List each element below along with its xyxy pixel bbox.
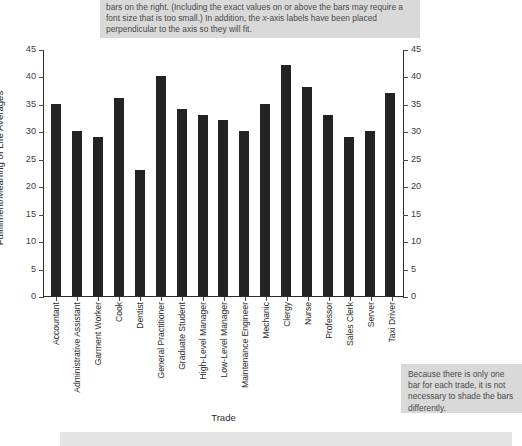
x-axis-label-text: Administrative Assistant	[72, 302, 81, 393]
y-tick-right	[403, 242, 408, 243]
x-axis-label-text: Professor	[324, 302, 333, 339]
y-tick-label-left: 15	[26, 210, 36, 219]
y-tick-left	[39, 270, 44, 271]
y-tick-label-right: 15	[411, 210, 421, 219]
x-tick	[224, 297, 225, 301]
bar	[323, 115, 333, 296]
y-tick-left	[39, 132, 44, 133]
y-tick-left	[39, 242, 44, 243]
bar	[114, 98, 124, 296]
bar	[93, 137, 103, 296]
x-axis-label: Administrative Assistant	[72, 302, 82, 402]
y-tick-label-right: 35	[411, 100, 421, 109]
x-tick	[56, 297, 57, 301]
y-tick-label-left: 35	[26, 100, 36, 109]
y-tick-label-right: 45	[411, 45, 421, 54]
y-tick-left	[39, 77, 44, 78]
y-tick-left	[39, 215, 44, 216]
bar	[177, 109, 187, 296]
x-axis-label: Nurse	[303, 302, 313, 402]
x-axis-label: Accountant	[51, 302, 61, 402]
x-axis-label: Low-Level Manager	[219, 302, 229, 402]
y-tick-label-left: 20	[26, 183, 36, 192]
bar	[239, 131, 249, 296]
y-tick-right	[403, 270, 408, 271]
x-tick	[182, 297, 183, 301]
bar-chart: Fulfillment/Meaning of Life Averages 051…	[0, 40, 522, 440]
y-tick-left	[39, 105, 44, 106]
x-axis-label: Mechanic	[261, 302, 271, 402]
y-tick-right	[403, 77, 408, 78]
x-tick	[161, 297, 162, 301]
y-tick-label-left: 25	[26, 155, 36, 164]
bar-series	[44, 50, 403, 296]
y-tick-right	[403, 132, 408, 133]
x-tick	[371, 297, 372, 301]
x-tick	[266, 297, 267, 301]
y-tick-label-right: 25	[411, 155, 421, 164]
x-axis-label: Clergy	[282, 302, 292, 402]
bar	[72, 131, 82, 296]
x-tick	[98, 297, 99, 301]
y-tick-label-left: 30	[26, 128, 36, 137]
x-axis-label: Garment Worker	[93, 302, 103, 402]
y-axis-title: Fulfillment/Meaning of Life Averages	[0, 91, 5, 245]
y-tick-label-right: 30	[411, 128, 421, 137]
x-tick	[350, 297, 351, 301]
bar	[302, 87, 312, 296]
y-tick-label-left: 5	[31, 265, 36, 274]
bar	[260, 104, 270, 296]
y-tick-label-right: 20	[411, 183, 421, 192]
x-axis-label: Server	[366, 302, 376, 402]
x-axis-label-text: Low-Level Manager	[219, 302, 228, 377]
y-tick-right	[403, 187, 408, 188]
bar	[135, 170, 145, 296]
y-tick-label-left: 40	[26, 73, 36, 82]
x-axis-label-text: Taxi Driver	[387, 302, 396, 343]
bar	[156, 76, 166, 296]
x-tick	[308, 297, 309, 301]
bar	[51, 104, 61, 296]
x-axis-label: Professor	[324, 302, 334, 402]
x-axis-label-text: Cook	[114, 302, 123, 322]
x-axis-label-text: Clergy	[282, 302, 291, 327]
x-axis-label-text: Garment Worker	[93, 302, 102, 365]
x-tick	[77, 297, 78, 301]
y-tick-right	[403, 50, 408, 51]
x-axis-label-text: General Practitioner	[156, 302, 165, 378]
y-tick-label-right: 40	[411, 73, 421, 82]
x-tick	[287, 297, 288, 301]
x-axis-label-text: Mechanic	[261, 302, 270, 339]
y-tick-right	[403, 105, 408, 106]
y-tick-label-left: 10	[26, 238, 36, 247]
y-tick-right	[403, 160, 408, 161]
bar	[365, 131, 375, 296]
x-axis-label-text: Accountant	[51, 302, 60, 345]
bar	[344, 137, 354, 296]
bar	[385, 93, 395, 296]
y-tick-right	[403, 215, 408, 216]
x-tick	[392, 297, 393, 301]
y-tick-label-left: 45	[26, 45, 36, 54]
x-axis-label: Graduate Student	[177, 302, 187, 402]
bar	[281, 65, 291, 296]
bar	[218, 120, 228, 296]
x-tick	[245, 297, 246, 301]
y-tick-left	[39, 160, 44, 161]
y-tick-left	[39, 50, 44, 51]
plot-area: 051015202530354045 051015202530354045	[43, 50, 404, 297]
x-axis-label: General Practitioner	[156, 302, 166, 402]
x-tick	[140, 297, 141, 301]
x-axis-label: Cook	[114, 302, 124, 402]
x-axis-label: High-Level Manager	[198, 302, 208, 402]
y-tick-label-right: 10	[411, 238, 421, 247]
callout-top-text: bars on the right. (Including the exact …	[106, 2, 403, 34]
y-tick-label-left: 0	[31, 292, 36, 301]
x-axis-label: Sales Clerk	[345, 302, 355, 402]
callout-top-note: bars on the right. (Including the exact …	[100, 0, 420, 38]
x-axis-label-text: Dentist	[135, 302, 144, 329]
x-axis-label-text: Server	[366, 302, 375, 327]
x-axis-label-text: High-Level Manager	[198, 302, 207, 379]
x-axis-label: Dentist	[135, 302, 145, 402]
